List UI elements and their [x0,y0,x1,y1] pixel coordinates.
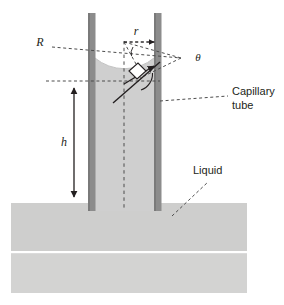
liquid-pool-gap-line [11,251,247,253]
capillary-diagram-svg: R r θ h Capillary tube Liquid [0,0,284,305]
label-capillary-tube-line2: tube [232,99,253,111]
liquid-column-group [95,55,154,213]
label-tube-radius: r [134,24,139,38]
capillary-diagram-figure: R r θ h Capillary tube Liquid [0,0,284,305]
tube-left-wall-shadow [88,13,90,211]
tube-right-wall-shadow [154,13,156,211]
liquid-pool-group [11,203,247,293]
label-height: h [61,135,67,149]
liquid-pool-lower-band [11,253,247,293]
label-radius-of-curvature: R [35,35,44,49]
label-capillary-tube-line1: Capillary [232,85,275,97]
liquid-column-fill [95,55,154,213]
label-liquid: Liquid [193,164,222,176]
label-contact-angle: θ [195,51,201,63]
